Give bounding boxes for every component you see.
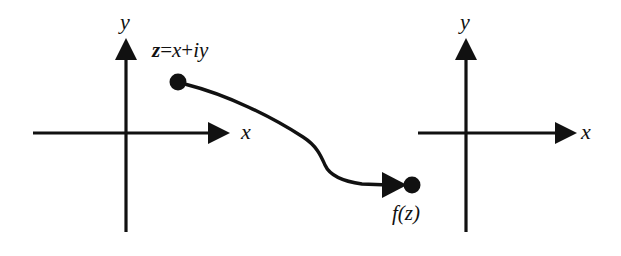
source-label-equals-sign: = xyxy=(160,38,172,62)
diagram-canvas xyxy=(0,0,621,256)
source-label-imaginary-part: y xyxy=(199,38,208,62)
source-point-dot xyxy=(170,74,187,91)
source-label-real-part: x xyxy=(172,38,181,62)
z-plane-x-axis-arrowhead xyxy=(208,122,230,144)
z-plane-y-axis-label: y xyxy=(120,11,130,33)
source-label-plus-sign: + xyxy=(181,38,193,62)
w-plane-y-axis-arrowhead xyxy=(455,38,477,60)
source-point-label: z=x+iy xyxy=(152,40,208,61)
z-plane-y-axis-arrowhead xyxy=(115,38,137,60)
complex-mapping-figure: y x y x z=x+iy f(z) xyxy=(0,0,621,256)
w-plane-axes xyxy=(418,38,577,232)
mapping-arrowhead xyxy=(382,172,407,198)
target-point-dot xyxy=(404,177,421,194)
w-plane-x-axis-label: x xyxy=(581,121,591,143)
source-label-variable: z xyxy=(152,38,160,62)
target-point-label: f(z) xyxy=(392,203,420,224)
z-plane-axes xyxy=(33,38,230,232)
w-plane-x-axis-arrowhead xyxy=(555,122,577,144)
mapping-arrow xyxy=(187,85,408,199)
w-plane-y-axis-label: y xyxy=(460,11,470,33)
z-plane-x-axis-label: x xyxy=(241,121,251,143)
